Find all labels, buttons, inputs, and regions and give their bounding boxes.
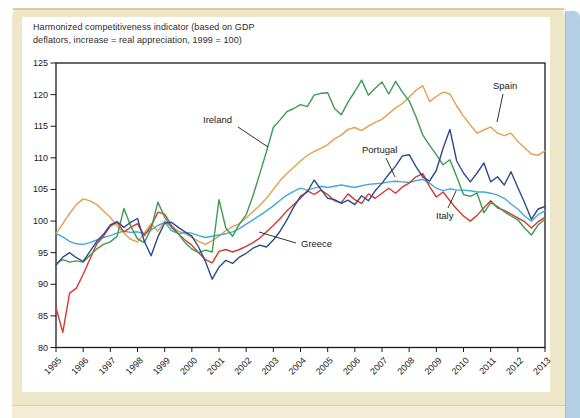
series-label-italy: Italy [436,210,454,221]
x-tick-label: 2004 [287,355,308,376]
y-tick-label: 85 [38,311,48,321]
y-tick-label: 90 [38,279,48,289]
x-tick-label: 2008 [395,355,416,376]
x-tick-label: 2013 [531,355,552,376]
series-label-spain: Spain [493,80,517,91]
x-tick-label: 2007 [368,355,389,376]
y-tick-label: 80 [38,343,48,353]
x-tick-label: 1996 [69,355,90,376]
y-tick-label: 95 [38,248,48,258]
series-line-portugal [56,179,545,244]
y-tick-label: 100 [33,216,48,226]
x-tick-label: 2003 [260,355,281,376]
series-label-greece: Greece [301,238,332,249]
x-tick-label: 2006 [341,355,362,376]
x-tick-label: 1999 [151,355,172,376]
x-tick-label: 2009 [423,355,444,376]
x-tick-label: 2000 [178,355,199,376]
y-tick-label: 110 [34,153,48,163]
x-tick-label: 2002 [232,355,253,376]
series-line-italy [56,129,545,279]
x-tick-label: 2005 [314,355,335,376]
series-label-portugal: Portugal [362,144,397,155]
series-callout-spain [497,94,503,122]
y-tick-label: 125 [33,58,48,68]
series-line-ireland [56,80,545,263]
x-tick-label: 2001 [205,355,226,376]
series-label-ireland: Ireland [203,114,232,125]
series-callout-ireland [238,127,268,147]
y-tick-label: 120 [33,90,48,100]
y-tick-label: 105 [33,184,48,194]
x-tick-label: 2010 [450,355,471,376]
y-tick-label: 115 [34,121,48,131]
competitiveness-line-chart: 8085909510010511011512012519951996199719… [0,0,580,418]
x-tick-label: 1995 [42,355,63,376]
plot-area [56,63,545,348]
x-tick-label: 2011 [477,355,498,376]
x-tick-label: 1998 [124,355,145,376]
x-tick-label: 2012 [504,355,525,376]
book-page: { "page": { "background": "#ffffff", "fr… [0,0,580,418]
x-tick-label: 1997 [97,355,118,376]
